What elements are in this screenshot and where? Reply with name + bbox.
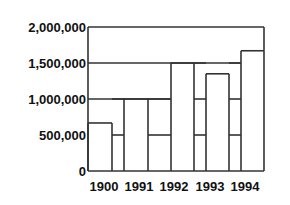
x-tick-label: 1991 (125, 179, 154, 194)
y-tick-label: 1,000,000 (28, 92, 86, 107)
y-tick-label: 0 (79, 164, 86, 179)
bar-chart: 0500,0001,000,0001,500,0002,000,000 1900… (0, 0, 290, 205)
x-tick-label: 1900 (90, 179, 119, 194)
x-tick-label: 1994 (231, 179, 261, 194)
y-tick-label: 500,000 (39, 128, 86, 143)
x-tick-label: 1993 (196, 179, 225, 194)
y-axis-tick-labels: 0500,0001,000,0001,500,0002,000,000 (28, 20, 86, 179)
y-tick-label: 2,000,000 (28, 20, 86, 35)
x-tick-label: 1992 (160, 179, 189, 194)
x-axis-tick-labels: 19001991199219931994 (90, 179, 261, 194)
y-tick-label: 1,500,000 (28, 56, 86, 71)
plot-lines (88, 27, 264, 171)
